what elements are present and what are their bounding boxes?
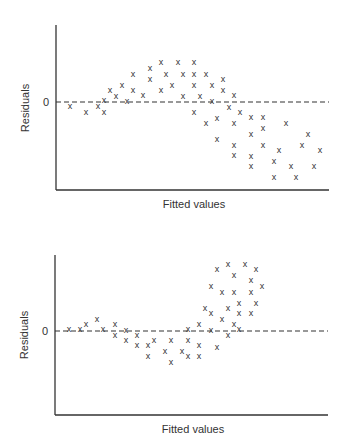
data-point-marker: x — [272, 172, 277, 182]
data-point-marker: x — [203, 303, 208, 313]
data-point-marker: x — [312, 161, 317, 171]
data-point-marker: x — [181, 91, 186, 101]
residual-plots: 0 Fitted values Residuals xxxxxxxxxxxxxx… — [0, 0, 347, 446]
data-point-marker: x — [164, 69, 169, 79]
data-point-marker: x — [102, 95, 107, 105]
top-x-axis-label: Fitted values — [163, 198, 226, 210]
data-point-marker: x — [221, 74, 226, 84]
data-point-marker: x — [131, 85, 136, 95]
data-point-marker: x — [102, 107, 107, 117]
data-point-marker: x — [181, 69, 186, 79]
data-point-marker: x — [176, 57, 181, 67]
data-point-marker: x — [197, 319, 202, 329]
data-point-marker: x — [215, 342, 220, 352]
data-point-marker: x — [131, 69, 136, 79]
data-point-marker: x — [120, 80, 125, 90]
data-point-marker: x — [135, 340, 140, 350]
data-point-marker: x — [159, 57, 164, 67]
data-point-marker: x — [232, 90, 237, 100]
data-point-marker: x — [254, 298, 259, 308]
top-zero-tick-label: 0 — [43, 96, 49, 108]
data-point-marker: x — [210, 80, 215, 90]
data-point-marker: x — [192, 107, 197, 117]
data-point-marker: x — [135, 330, 140, 340]
data-point-marker: x — [227, 102, 232, 112]
data-point-marker: x — [209, 325, 214, 335]
data-point-marker: x — [249, 161, 254, 171]
data-point-marker: x — [261, 123, 266, 133]
bottom-data-points: xxxxxxxxxxxxxxxxxxxxxxxxxxxxxxxxxxxxxxxx… — [67, 259, 265, 367]
data-point-marker: x — [113, 319, 118, 329]
data-point-marker: x — [141, 90, 146, 100]
data-point-marker: x — [192, 57, 197, 67]
data-point-marker: x — [294, 172, 299, 182]
bottom-x-axis-label: Fitted values — [162, 423, 225, 435]
data-point-marker: x — [318, 145, 323, 155]
top-y-axis-label: Residuals — [19, 83, 31, 132]
data-point-marker: x — [249, 129, 254, 139]
data-point-marker: x — [186, 335, 191, 345]
data-point-marker: x — [204, 118, 209, 128]
data-point-marker: x — [289, 161, 294, 171]
data-point-marker: x — [215, 264, 220, 274]
data-point-marker: x — [232, 270, 237, 280]
data-point-marker: x — [146, 340, 151, 350]
data-point-marker: x — [108, 85, 113, 95]
bottom-zero-tick-label: 0 — [42, 325, 48, 337]
bottom-residual-plot: 0 Fitted values Residuals xxxxxxxxxxxxxx… — [18, 255, 328, 435]
data-point-marker: x — [197, 351, 202, 361]
data-point-marker: x — [84, 107, 89, 117]
data-point-marker: x — [209, 281, 214, 291]
data-point-marker: x — [277, 145, 282, 155]
data-point-marker: x — [249, 287, 254, 297]
data-point-marker: x — [68, 101, 73, 111]
data-point-marker: x — [254, 264, 259, 274]
data-point-marker: x — [300, 140, 305, 150]
data-point-marker: x — [232, 150, 237, 160]
data-point-marker: x — [261, 140, 266, 150]
data-point-marker: x — [148, 63, 153, 73]
data-point-marker: x — [249, 151, 254, 161]
data-point-marker: x — [163, 346, 168, 356]
data-point-marker: x — [101, 324, 106, 334]
data-point-marker: x — [260, 281, 265, 291]
data-point-marker: x — [186, 324, 191, 334]
data-point-marker: x — [125, 96, 130, 106]
data-point-marker: x — [306, 129, 311, 139]
data-point-marker: x — [159, 85, 164, 95]
data-point-marker: x — [84, 319, 89, 329]
data-point-marker: x — [113, 330, 118, 340]
data-point-marker: x — [243, 259, 248, 269]
data-point-marker: x — [124, 325, 129, 335]
data-point-marker: x — [67, 324, 72, 334]
data-point-marker: x — [272, 156, 277, 166]
data-point-marker: x — [198, 91, 203, 101]
data-point-marker: x — [169, 335, 174, 345]
data-point-marker: x — [124, 335, 129, 345]
data-point-marker: x — [232, 287, 237, 297]
data-point-marker: x — [169, 357, 174, 367]
data-point-marker: x — [170, 80, 175, 90]
data-point-marker: x — [226, 330, 231, 340]
data-point-marker: x — [238, 107, 243, 117]
data-point-marker: x — [197, 340, 202, 350]
data-point-marker: x — [186, 351, 191, 361]
data-point-marker: x — [192, 80, 197, 90]
data-point-marker: x — [249, 112, 254, 122]
data-point-marker: x — [209, 308, 214, 318]
data-point-marker: x — [215, 113, 220, 123]
data-point-marker: x — [95, 314, 100, 324]
data-point-marker: x — [96, 101, 101, 111]
bottom-y-axis-label: Residuals — [18, 310, 30, 359]
data-point-marker: x — [220, 314, 225, 324]
data-point-marker: x — [180, 346, 185, 356]
top-residual-plot: 0 Fitted values Residuals xxxxxxxxxxxxxx… — [19, 25, 329, 210]
data-point-marker: x — [78, 324, 83, 334]
data-point-marker: x — [237, 298, 242, 308]
data-point-marker: x — [226, 303, 231, 313]
data-point-marker: x — [226, 259, 231, 269]
data-point-marker: x — [210, 96, 215, 106]
data-point-marker: x — [249, 275, 254, 285]
top-data-points: xxxxxxxxxxxxxxxxxxxxxxxxxxxxxxxxxxxxxxxx… — [68, 57, 323, 182]
data-point-marker: x — [148, 74, 153, 84]
